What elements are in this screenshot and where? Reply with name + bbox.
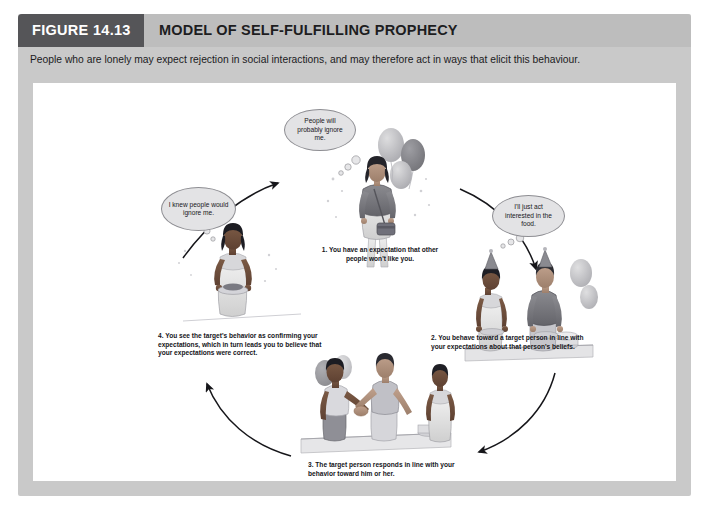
person-step4 — [214, 223, 252, 317]
arrow-step3-to-step4 — [207, 384, 291, 456]
step-2-caption: 2. You behave toward a target person in … — [431, 334, 591, 351]
person-step3-man-middle — [355, 353, 412, 441]
diagram-artwork — [33, 83, 676, 481]
figure-title: MODEL OF SELF-FULFILLING PROPHECY — [159, 22, 458, 38]
thought-bubble-right-text: I'll just act interested in the food. — [499, 203, 558, 228]
figure-root: FIGURE 14.13 MODEL OF SELF-FULFILLING PR… — [0, 0, 709, 510]
step-1-number: 1. — [322, 246, 328, 253]
step-3-number: 3. — [308, 461, 314, 468]
handshake-icon — [354, 406, 368, 416]
scene-step-3 — [301, 353, 455, 453]
figure-canvas: People will probably ignore me. I knew p… — [33, 83, 676, 481]
figure-header-bar: FIGURE 14.13 MODEL OF SELF-FULFILLING PR… — [18, 14, 691, 47]
step-3-caption: 3. The target person responds in line wi… — [308, 461, 458, 478]
thought-trail-1 — [339, 156, 360, 175]
thought-bubble-left-text: I knew people would ignore me. — [168, 201, 229, 218]
step-2-text: You behave toward a target person in lin… — [431, 334, 584, 350]
step-4-text: You see the target's behavior as confirm… — [158, 332, 321, 356]
thought-bubble-right: I'll just act interested in the food. — [492, 195, 565, 237]
step-3-text: The target person responds in line with … — [308, 461, 455, 477]
step-1-caption: 1. You have an expectation that other pe… — [311, 246, 449, 263]
step-4-caption: 4. You see the target's behavior as conf… — [158, 332, 328, 358]
figure-number-tab: FIGURE 14.13 — [18, 14, 144, 47]
step-2-number: 2. — [431, 334, 437, 341]
thought-bubble-left: I knew people would ignore me. — [161, 187, 236, 231]
figure-intro-strip: People who are lonely may expect rejecti… — [18, 47, 691, 76]
thought-bubble-top-text: People will probably ignore me. — [291, 117, 349, 142]
figure-intro-text: People who are lonely may expect rejecti… — [30, 54, 580, 65]
thought-bubble-top: People will probably ignore me. — [284, 109, 356, 151]
person-step3-woman — [426, 364, 455, 442]
step-1-text: You have an expectation that other peopl… — [329, 246, 438, 262]
scene-step-4 — [178, 220, 301, 321]
arrow-step2-to-step3 — [479, 373, 555, 452]
figure-number-label: FIGURE 14.13 — [32, 22, 131, 38]
figure-panel: FIGURE 14.13 MODEL OF SELF-FULFILLING PR… — [18, 14, 691, 496]
step-4-number: 4. — [158, 332, 164, 339]
